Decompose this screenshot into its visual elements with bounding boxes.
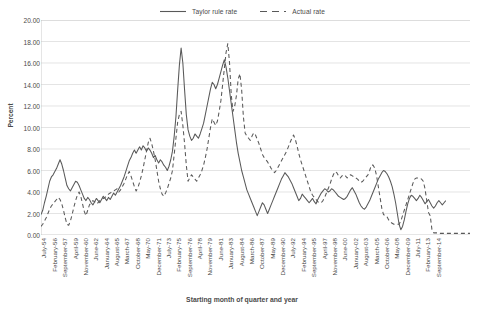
taylor-rule-chart: Taylor rule rate Actual rate Percent 0.0… — [0, 0, 484, 316]
y-tick-label: 4.00 — [27, 189, 40, 196]
x-axis-title: Starting month of quarter and year — [0, 296, 484, 303]
x-tick-label: December-09 — [403, 238, 410, 276]
x-tick-label: May-70 — [144, 238, 151, 259]
series-line-actual-rate — [41, 44, 470, 234]
legend-dashed-line-icon — [259, 8, 287, 15]
x-tick-label: January-64 — [102, 238, 109, 269]
x-tick-label: June-81 — [216, 238, 223, 260]
x-tick-label: July-54 — [40, 238, 47, 258]
plot-svg — [41, 20, 470, 235]
x-tick-label: October-68 — [133, 238, 140, 269]
series-line-taylor-rule-rate — [41, 48, 446, 230]
y-tick-label: 14.00 — [23, 81, 40, 88]
legend-entry-taylor-rule-rate: Taylor rule rate — [159, 8, 237, 15]
y-tick-label: 2.00 — [27, 210, 40, 217]
y-tick-label: 8.00 — [27, 146, 40, 153]
x-tick-label: November-60 — [81, 238, 88, 276]
legend-label-actual-rate: Actual rate — [292, 8, 325, 15]
x-tick-label: May-89 — [268, 238, 275, 259]
x-tick-label: June-00 — [341, 238, 348, 260]
y-tick-label: 6.00 — [27, 167, 40, 174]
x-tick-label: February-94 — [299, 238, 306, 272]
legend-entry-actual-rate: Actual rate — [259, 8, 325, 15]
x-tick-label: March-67 — [123, 238, 130, 264]
y-axis-tick-labels: 0.002.004.006.008.0010.0012.0014.0016.00… — [6, 20, 40, 235]
x-tick-label: July-73 — [164, 238, 171, 258]
x-tick-label: January-83 — [227, 238, 234, 269]
x-tick-label: February-56 — [50, 238, 57, 272]
x-tick-label: October-06 — [382, 238, 389, 269]
x-tick-label: March-05 — [372, 238, 379, 264]
x-tick-label: August-84 — [237, 238, 244, 266]
y-tick-label: 12.00 — [23, 103, 40, 110]
legend-solid-line-icon — [159, 8, 187, 15]
x-tick-label: September-57 — [61, 238, 68, 277]
legend-label-taylor-rule-rate: Taylor rule rate — [192, 8, 237, 15]
x-tick-label: April-78 — [196, 238, 203, 259]
series-lines — [41, 44, 470, 234]
x-tick-label: April-97 — [320, 238, 327, 259]
x-tick-label: March-86 — [247, 238, 254, 264]
plot-area — [41, 20, 470, 235]
x-axis-tick-labels: July-54February-56September-57April-59No… — [41, 238, 470, 296]
x-tick-label: August-03 — [362, 238, 369, 266]
x-tick-label: December-90 — [279, 238, 286, 276]
y-tick-label: 20.00 — [23, 17, 40, 24]
x-tick-label: February-75 — [175, 238, 182, 272]
x-tick-label: October-87 — [258, 238, 265, 269]
y-tick-label: 16.00 — [23, 60, 40, 67]
x-tick-label: November-79 — [206, 238, 213, 276]
x-tick-label: September-76 — [185, 238, 192, 277]
x-tick-label: September-95 — [310, 238, 317, 277]
x-tick-label: June-62 — [92, 238, 99, 260]
x-tick-label: November-98 — [331, 238, 338, 276]
y-tick-label: 18.00 — [23, 38, 40, 45]
x-tick-label: December-71 — [154, 238, 161, 276]
x-tick-label: July-92 — [289, 238, 296, 258]
chart-legend: Taylor rule rate Actual rate — [0, 3, 484, 19]
x-tick-label: August-65 — [113, 238, 120, 266]
x-tick-label: February-13 — [424, 238, 431, 272]
x-tick-label: July-11 — [414, 238, 421, 258]
y-tick-label: 10.00 — [23, 124, 40, 131]
x-tick-label: January-02 — [351, 238, 358, 269]
y-tick-label: 0.00 — [27, 232, 40, 239]
x-tick-label: April-59 — [71, 238, 78, 259]
x-tick-label: May-08 — [393, 238, 400, 259]
x-tick-label: September-14 — [434, 238, 441, 277]
gridlines — [41, 20, 470, 214]
